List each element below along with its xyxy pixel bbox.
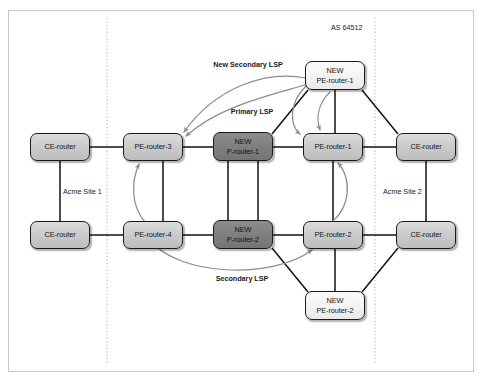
- node-new-pe-router-1-label: PE-router-1: [316, 76, 353, 85]
- node-new-pe-router-2[interactable]: NEW PE-router-2: [305, 291, 365, 320]
- node-pe-router-2[interactable]: PE-router-2: [303, 221, 363, 249]
- node-ce-right-bottom-label: CE-router: [410, 230, 441, 239]
- annotation-secondary-lsp-line1: Secondary LSP: [216, 274, 269, 283]
- annotation-primary-lsp: Primary LSP: [216, 108, 288, 117]
- network-diagram-figure: AS 64512 Acme Site 1 Acme Site 2 New Sec…: [0, 0, 484, 384]
- link-newpe1-to-ce-right-top-diag: [362, 90, 398, 134]
- physical-links: [60, 90, 426, 292]
- node-pe-router-1-label: PE-router-1: [314, 142, 351, 151]
- node-pe-router-2-label: PE-router-2: [314, 230, 351, 239]
- primary-lsp-arrow-right: [292, 86, 306, 134]
- node-pe-router-3[interactable]: PE-router-3: [123, 133, 183, 161]
- new-pe-router-1-down-arrow: [318, 92, 330, 130]
- node-pe-router-4-label: PE-router-4: [134, 230, 171, 239]
- node-pe-router-3-label: PE-router-3: [134, 142, 171, 151]
- node-new-pe-router-2-badge: NEW: [327, 296, 344, 305]
- node-new-p-router-1-badge: NEW: [235, 137, 252, 146]
- node-ce-left-top[interactable]: CE-router: [30, 133, 90, 161]
- node-ce-left-bottom-label: CE-router: [44, 230, 75, 239]
- annotation-new-secondary-lsp: New Secondary LSP: [207, 61, 289, 70]
- node-new-pe-router-1-badge: NEW: [327, 66, 344, 75]
- node-new-p-router-1[interactable]: NEW P-router-1: [213, 132, 273, 161]
- node-new-p-router-2[interactable]: NEW P-router-2: [213, 220, 273, 249]
- node-ce-right-bottom[interactable]: CE-router: [396, 221, 456, 249]
- as-label: AS 64512: [331, 24, 363, 33]
- node-new-p-router-2-label: P-router-2: [227, 235, 259, 244]
- node-new-p-router-1-label: P-router-1: [227, 147, 259, 156]
- node-ce-left-top-label: CE-router: [44, 142, 75, 151]
- annotation-new-secondary-lsp-line1: New: [213, 60, 228, 69]
- annotation-new-secondary-lsp-line2: Secondary LSP: [230, 60, 283, 69]
- node-pe-router-4[interactable]: PE-router-4: [123, 221, 183, 249]
- site-label-left: Acme Site 1: [63, 188, 102, 197]
- node-new-p-router-2-badge: NEW: [235, 225, 252, 234]
- annotation-primary-lsp-line1: Primary LSP: [231, 107, 274, 116]
- node-ce-left-bottom[interactable]: CE-router: [30, 221, 90, 249]
- annotation-secondary-lsp: Secondary LSP: [200, 275, 284, 284]
- node-new-pe-router-1[interactable]: NEW PE-router-1: [305, 61, 365, 90]
- node-ce-right-top-label: CE-router: [410, 142, 441, 151]
- secondary-lsp-arrow-up: [326, 163, 347, 226]
- site-label-right: Acme Site 2: [383, 188, 422, 197]
- node-new-pe-router-2-label: PE-router-2: [316, 306, 353, 315]
- node-pe-router-1[interactable]: PE-router-1: [303, 133, 363, 161]
- link-newp2-to-newpe2-diag: [272, 248, 308, 292]
- secondary-lsp-arrow-left: [134, 164, 145, 222]
- link-newpe2-to-ce-right-bottom-diag: [362, 248, 398, 292]
- node-ce-right-top[interactable]: CE-router: [396, 133, 456, 161]
